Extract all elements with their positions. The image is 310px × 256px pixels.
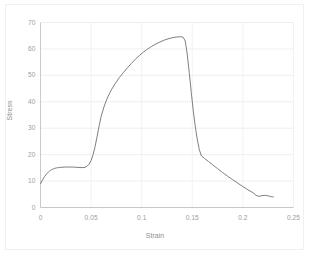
stress-strain-chart: 010203040506070 00.050.10.150.20.25 Stre… — [0, 0, 310, 256]
x-axis-title: Strain — [0, 232, 310, 239]
y-tick-label: 30 — [22, 124, 36, 131]
y-tick-label: 0 — [22, 204, 36, 211]
x-tick-label: 0.2 — [231, 214, 255, 221]
x-tick-label: 0.15 — [180, 214, 204, 221]
x-tick-label: 0.25 — [282, 214, 306, 221]
y-tick-label: 70 — [22, 19, 36, 26]
x-tick-label: 0.1 — [130, 214, 154, 221]
y-tick-label: 10 — [22, 177, 36, 184]
data-series-line — [41, 37, 274, 197]
x-tick-label: 0 — [29, 214, 53, 221]
gridlines — [41, 23, 294, 208]
y-tick-label: 20 — [22, 151, 36, 158]
y-tick-label: 40 — [22, 98, 36, 105]
x-tick-label: 0.05 — [79, 214, 103, 221]
y-tick-label: 50 — [22, 71, 36, 78]
y-tick-label: 60 — [22, 45, 36, 52]
axis-lines — [41, 23, 294, 208]
y-axis-title: Stress — [6, 86, 13, 136]
